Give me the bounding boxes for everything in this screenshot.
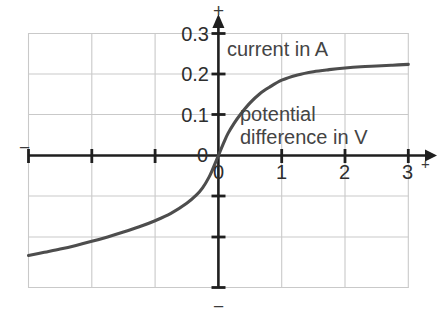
y-axis-title: current in A (227, 38, 328, 62)
y-tick-label-0-2: 0.2 (165, 63, 209, 87)
x-tick-label-0: 0 (213, 161, 224, 185)
x-tick-label-2: 2 (339, 161, 350, 185)
chart-figure: 0.3 0.2 0.1 0 0 1 2 3 + − − + current in… (0, 0, 442, 325)
y-axis-minus-sign: − (213, 296, 224, 318)
x-axis-title-line1: potential (240, 103, 316, 127)
y-tick-label-0-3: 0.3 (165, 23, 209, 47)
y-axis (212, 14, 226, 288)
x-axis-plus-sign: + (421, 155, 430, 173)
x-axis (29, 149, 438, 163)
x-tick-label-3: 3 (402, 161, 413, 185)
x-axis-title-line2: difference in V (240, 126, 368, 150)
x-tick-label-1: 1 (276, 161, 287, 185)
y-tick-label-0-1: 0.1 (165, 104, 209, 128)
y-tick-label-0: 0 (197, 144, 208, 168)
y-axis-plus-sign: + (213, 0, 224, 22)
x-axis-minus-sign: − (19, 137, 30, 159)
